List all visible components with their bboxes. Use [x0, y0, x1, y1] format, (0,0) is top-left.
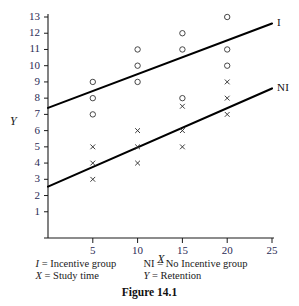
x-tick-label: 10 — [128, 245, 148, 256]
regression-lines — [48, 23, 272, 186]
legend-text-x: = Study time — [45, 270, 99, 281]
y-tick-label: 11 — [24, 43, 40, 54]
legend-key-i: I — [36, 258, 40, 269]
y-tick-label: 1 — [24, 206, 40, 217]
y-tick-label: 6 — [24, 125, 40, 136]
x-tick-label: 20 — [217, 245, 237, 256]
legend-text-ni: = No Incentive group — [157, 258, 247, 269]
x-tick-label: 15 — [172, 245, 192, 256]
legend-cell-no-incentive: NI = No Incentive group — [144, 258, 264, 270]
legend-text-y: = Retention — [152, 270, 201, 281]
data-markers-no-incentive — [90, 80, 229, 182]
y-axis-title: Y — [10, 114, 17, 129]
legend-cell-study-time: X = Study time — [36, 270, 144, 282]
y-tick-label: 8 — [24, 92, 40, 103]
legend-key-x: X — [36, 270, 42, 281]
y-tick-label: 10 — [24, 60, 40, 71]
series-label-no-incentive: NI — [277, 81, 289, 93]
series-label-incentive: I — [277, 16, 281, 28]
y-tick-label: 2 — [24, 190, 40, 201]
legend-cell-retention: Y = Retention — [144, 270, 264, 282]
legend-text-i: = Incentive group — [42, 258, 117, 269]
x-tick-label: 25 — [262, 245, 282, 256]
legend-cell-incentive: I = Incentive group — [36, 258, 144, 270]
y-axis-ticks — [44, 17, 48, 212]
y-tick-label: 9 — [24, 76, 40, 87]
y-tick-label: 4 — [24, 157, 40, 168]
y-tick-label: 13 — [24, 11, 40, 22]
figure-legend: I = Incentive group NI = No Incentive gr… — [0, 258, 299, 281]
legend-key-y: Y — [144, 270, 150, 281]
legend-row-1: I = Incentive group NI = No Incentive gr… — [0, 258, 299, 270]
y-tick-label: 5 — [24, 141, 40, 152]
legend-row-2: X = Study time Y = Retention — [0, 270, 299, 282]
legend-key-ni: NI — [144, 258, 155, 269]
y-tick-label: 12 — [24, 27, 40, 38]
y-tick-label: 7 — [24, 108, 40, 119]
x-axis-ticks — [93, 238, 272, 243]
x-tick-label: 5 — [83, 245, 103, 256]
y-tick-label: 3 — [24, 173, 40, 184]
figure-caption: Figure 14.1 — [0, 286, 299, 298]
plot-axes — [44, 14, 274, 243]
